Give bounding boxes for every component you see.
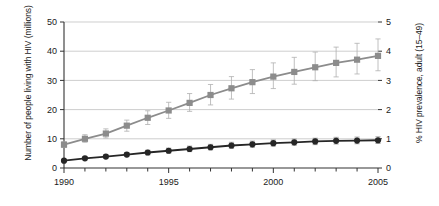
x-tick-labels: 1990199520002005: [54, 177, 388, 187]
data-point-marker: [228, 85, 234, 91]
data-point-marker: [82, 136, 88, 142]
plot-axes: [60, 22, 382, 173]
data-point-marker: [187, 100, 193, 106]
data-point-marker: [333, 60, 339, 66]
data-point-marker: [124, 123, 130, 129]
y-tick-labels-right: 012345: [386, 17, 391, 173]
data-point-marker: [249, 141, 255, 147]
data-point-marker: [103, 154, 109, 160]
data-point-marker: [270, 74, 276, 80]
data-point-marker: [291, 139, 297, 145]
data-point-marker: [82, 155, 88, 161]
data-point-marker: [375, 53, 381, 59]
data-point-marker: [61, 142, 67, 148]
data-point-marker: [354, 137, 360, 143]
data-point-marker: [166, 148, 172, 154]
y-tick-labels-left: 01020304050: [47, 17, 57, 173]
x-tick-label: 1990: [54, 177, 74, 187]
y-tick-label-right: 3: [386, 76, 391, 86]
data-point-marker: [124, 151, 130, 157]
series-line: [64, 140, 378, 160]
y-tick-label-right: 5: [386, 17, 391, 27]
chart-figure: Number of people living with HIV (millio…: [0, 0, 439, 206]
y-tick-label-right: 1: [386, 134, 391, 144]
hiv-dual-axis-line-chart: 1990199520002005 01020304050 012345: [0, 0, 439, 206]
data-point-marker: [61, 158, 67, 164]
x-tick-label: 2005: [368, 177, 388, 187]
data-point-marker: [228, 142, 234, 148]
x-tick-label: 1995: [159, 177, 179, 187]
series-adult-hiv-prevalence: [61, 137, 381, 164]
data-point-marker: [375, 137, 381, 143]
data-point-marker: [312, 64, 318, 70]
y-tick-label-left: 40: [47, 46, 57, 56]
y-tick-label-left: 20: [47, 105, 57, 115]
y-tick-label-left: 30: [47, 76, 57, 86]
y-tick-label-right: 2: [386, 105, 391, 115]
data-point-marker: [312, 138, 318, 144]
data-point-marker: [291, 69, 297, 75]
data-point-marker: [187, 146, 193, 152]
series-people-living-with-hiv: [61, 39, 381, 148]
data-point-marker: [354, 57, 360, 63]
data-point-marker: [207, 92, 213, 98]
y-tick-label-left: 10: [47, 134, 57, 144]
data-point-marker: [333, 138, 339, 144]
series-line: [64, 56, 378, 145]
data-point-marker: [166, 107, 172, 113]
y-tick-label-right: 4: [386, 46, 391, 56]
data-point-marker: [145, 149, 151, 155]
y-tick-label-left: 0: [52, 163, 57, 173]
y-tick-label-left: 50: [47, 17, 57, 27]
data-point-marker: [207, 144, 213, 150]
data-point-marker: [145, 115, 151, 121]
x-tick-label: 2000: [263, 177, 283, 187]
data-point-marker: [270, 140, 276, 146]
data-point-marker: [249, 79, 255, 85]
grid-lines: [64, 22, 378, 139]
data-point-marker: [103, 130, 109, 136]
y-tick-label-right: 0: [386, 163, 391, 173]
